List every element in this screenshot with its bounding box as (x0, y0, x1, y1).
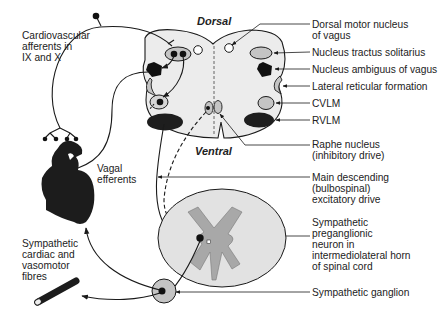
nts-left (165, 47, 191, 61)
blood-vessel (34, 281, 76, 306)
raphe-label: Raphe nucleus (inhibitory drive) (312, 139, 384, 161)
dmnv-left (194, 46, 203, 55)
dorsal-label: Dorsal (197, 15, 231, 27)
spinal-cord-section (158, 189, 286, 287)
cv-afferents-label: Cardiovascular afferents in IX and X (22, 30, 90, 63)
rvlm-right (244, 113, 274, 128)
nts-label: Nucleus tractus solitarius (312, 47, 425, 58)
rvlm-left (147, 114, 183, 131)
nts-right (250, 47, 272, 59)
preganglionic-neuron (196, 234, 203, 241)
ambiguus-label: Nucleus ambiguus of vagus (312, 64, 437, 75)
main-descending-label: Main descending (bulbospinal) excitatory… (312, 172, 389, 205)
preganglionic-label: Sympathetic preganglionic neuron in inte… (312, 217, 411, 272)
rvlm-label: RVLM (312, 115, 340, 126)
sympathetic-fibres-label: Sympathetic cardiac and vasomotor fibres (22, 238, 78, 282)
ventral-label: Ventral (195, 145, 232, 157)
ganglion-label: Sympathetic ganglion (312, 287, 409, 298)
dorsal-motor-nucleus-label: Dorsal motor nucleus of vagus (312, 19, 408, 41)
cvlm-right (258, 97, 274, 110)
raphe-nucleus-right (214, 101, 222, 114)
cvlm-label: CVLM (312, 98, 340, 109)
vagal-efferents-label: Vagal efferents (97, 163, 136, 185)
lateral-reticular-label: Lateral reticular formation (312, 81, 428, 92)
heart (42, 141, 95, 224)
